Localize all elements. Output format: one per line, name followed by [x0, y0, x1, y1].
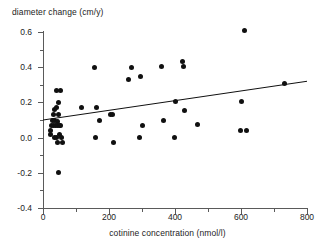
x-tick-label: 400: [155, 212, 195, 222]
data-point: [58, 88, 63, 93]
data-point: [172, 135, 177, 140]
data-point: [195, 122, 200, 127]
x-tick-label: 0: [23, 212, 63, 222]
data-point: [129, 65, 134, 70]
x-tick-minor: [142, 209, 143, 212]
data-point: [138, 74, 143, 79]
data-point: [126, 77, 131, 82]
x-tick-minor: [274, 209, 275, 212]
x-tick-label: 200: [89, 212, 129, 222]
data-point: [97, 118, 102, 123]
data-point: [181, 64, 186, 69]
y-tick-label: 0.2: [0, 97, 32, 107]
data-point: [140, 123, 145, 128]
data-point: [238, 128, 243, 133]
y-tick-label: 0.0: [0, 133, 32, 143]
data-point: [182, 108, 187, 113]
data-point: [92, 65, 97, 70]
data-point: [137, 135, 142, 140]
x-tick-minor: [208, 209, 209, 212]
y-tick-label: -0.2: [0, 168, 32, 178]
data-point: [93, 135, 98, 140]
data-point: [56, 100, 61, 105]
x-tick-minor: [76, 209, 77, 212]
scatter-plot-figure: diameter change (cm/y) -0.4-0.20.00.20.4…: [0, 0, 335, 246]
y-tick-label: 0.4: [0, 62, 32, 72]
x-tick-label: 600: [221, 212, 261, 222]
trend-line: [43, 32, 307, 208]
plot-area: [43, 32, 307, 208]
x-tick-label: 800: [287, 212, 327, 222]
data-point: [159, 64, 164, 69]
x-axis-title: cotinine concentration (nmol/l): [0, 228, 335, 238]
y-axis-title: diameter change (cm/y): [12, 7, 103, 17]
y-tick-label: 0.6: [0, 27, 32, 37]
data-point: [161, 118, 166, 123]
data-point: [239, 99, 244, 104]
